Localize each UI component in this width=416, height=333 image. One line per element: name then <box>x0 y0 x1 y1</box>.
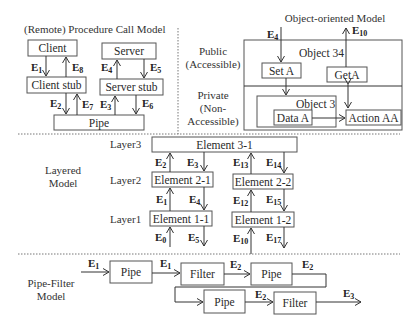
public-label-sub: (Accessible) <box>186 58 241 71</box>
svg-text:Client: Client <box>38 42 67 54</box>
layered-title-sub: Model <box>49 177 78 189</box>
layered-title: Layered <box>45 164 82 176</box>
pipe-filter-title-sub: Model <box>37 290 66 302</box>
label-f1p2-e2: E2 <box>230 258 241 272</box>
label-e8: E8 <box>72 61 83 75</box>
pipe2-box: Pipe <box>251 263 292 285</box>
svg-text:Pipe: Pipe <box>89 117 109 130</box>
label-e2: E2 <box>50 97 61 111</box>
architecture-models-diagram: (Remote) Procedure Call Model Client Ser… <box>0 0 416 333</box>
svg-text:Element 2-1: Element 2-1 <box>154 174 211 186</box>
svg-text:Object 3: Object 3 <box>296 98 336 111</box>
svg-text:Pipe: Pipe <box>121 266 141 279</box>
label-e4: E4 <box>189 193 200 207</box>
label-e13: E13 <box>233 156 248 170</box>
svg-text:Filter: Filter <box>190 268 215 280</box>
label-in-e1: E1 <box>88 257 99 271</box>
label-e14: E14 <box>266 156 281 170</box>
element-1-2: Element 1-2 <box>232 212 294 227</box>
label-e4: E4 <box>101 61 112 75</box>
label-out-e3: E3 <box>343 287 354 301</box>
label-p2out-e2: E2 <box>302 258 313 272</box>
label-p3f2-e2: E2 <box>255 288 266 302</box>
label-e3: E3 <box>187 156 198 170</box>
label-e7: E7 <box>82 98 93 112</box>
svg-text:Set A: Set A <box>269 65 295 77</box>
pipe-filter-title: Pipe-Filter <box>27 277 74 289</box>
rpc-title: (Remote) Procedure Call Model <box>24 23 165 36</box>
label-e5: E5 <box>188 231 199 245</box>
set-a-box: Set A <box>262 63 301 78</box>
label-e1: E1 <box>31 61 42 75</box>
pipe-box: Pipe <box>54 115 144 130</box>
label-e1: E1 <box>156 193 167 207</box>
object-oriented-model: Object-oriented Model Public (Accessible… <box>186 12 402 130</box>
svg-text:Object 34: Object 34 <box>299 47 344 60</box>
svg-text:Pipe: Pipe <box>214 296 234 309</box>
get-a-box: GetA <box>327 67 367 82</box>
client-stub-box: Client stub <box>27 77 86 93</box>
pipe3-box: Pipe <box>204 290 245 313</box>
svg-text:Element 2-2: Element 2-2 <box>235 176 292 188</box>
server-stub-box: Server stub <box>100 79 163 95</box>
svg-text:Server: Server <box>114 45 144 57</box>
public-label: Public <box>199 45 227 57</box>
svg-text:Element 3-1: Element 3-1 <box>196 139 253 151</box>
label-e15: E15 <box>266 193 281 207</box>
element-1-1: Element 1-1 <box>150 211 212 226</box>
element-2-2: Element 2-2 <box>233 174 293 189</box>
element-2-1: Element 2-1 <box>152 172 213 187</box>
svg-text:Element 1-2: Element 1-2 <box>235 214 292 226</box>
server-box: Server <box>102 43 156 59</box>
label-e10: E10 <box>352 24 367 38</box>
svg-text:Client stub: Client stub <box>31 79 81 91</box>
private-label-sub2: Accessible) <box>187 115 239 128</box>
svg-text:Element 1-1: Element 1-1 <box>153 213 210 225</box>
label-e17: E17 <box>266 231 281 245</box>
filter2-box: Filter <box>274 292 316 314</box>
label-p1f1-e1: E1 <box>160 257 171 271</box>
svg-text:Pipe: Pipe <box>261 268 281 281</box>
layered-model: Layered Model Layer3 Layer2 Layer1 Eleme… <box>45 137 297 254</box>
element-3-1: Element 3-1 <box>152 137 297 152</box>
private-label-sub: (Non- <box>200 102 227 115</box>
action-aa-box: Action AA <box>346 110 401 125</box>
svg-text:Server stub: Server stub <box>105 81 157 93</box>
pipe-filter-model: Pipe-Filter Model Pipe Filter Pipe Pipe … <box>27 257 361 314</box>
layer2-label: Layer2 <box>110 174 141 186</box>
label-e4: E4 <box>267 28 278 42</box>
filter1-box: Filter <box>181 263 224 285</box>
svg-text:GetA: GetA <box>335 69 361 81</box>
data-a-box: Data A <box>274 110 312 125</box>
rpc-model: (Remote) Procedure Call Model Client Ser… <box>24 23 165 130</box>
label-e3: E3 <box>100 98 111 112</box>
layer1-label: Layer1 <box>110 213 141 225</box>
layer3-label: Layer3 <box>110 138 142 150</box>
label-e12: E12 <box>233 194 248 208</box>
svg-text:Action AA: Action AA <box>348 112 399 124</box>
private-label: Private <box>197 89 228 101</box>
oo-title: Object-oriented Model <box>285 12 386 24</box>
label-e6: E6 <box>142 97 153 111</box>
label-e5: E5 <box>150 61 161 75</box>
client-box: Client <box>28 40 77 56</box>
pipe1-box: Pipe <box>110 261 152 283</box>
label-e10: E10 <box>233 232 248 246</box>
label-e0: E0 <box>155 231 166 245</box>
svg-text:Data A: Data A <box>277 112 310 124</box>
svg-text:Filter: Filter <box>283 297 308 309</box>
label-e2: E2 <box>155 156 166 170</box>
